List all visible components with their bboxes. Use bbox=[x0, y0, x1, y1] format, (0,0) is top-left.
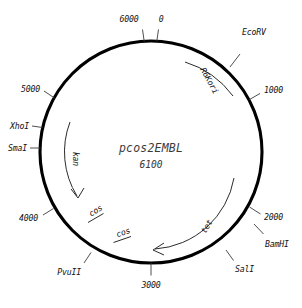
tick-mark-6000 bbox=[143, 30, 145, 42]
plasmid-size-label: 6100 bbox=[139, 159, 162, 170]
leader-ecorv bbox=[230, 54, 240, 67]
leader-xhoi bbox=[32, 126, 43, 128]
feature-label-cos-1: cos bbox=[87, 202, 105, 218]
site-label-ecorv: EcoRV bbox=[242, 27, 267, 37]
site-label-pvuii: PvuII bbox=[57, 267, 81, 277]
tick-label-0: 0 bbox=[159, 14, 164, 24]
feature-label-tet: tet bbox=[198, 218, 214, 236]
plasmid-map-diagram: 6000 0 1000 2000 3000 4000 5000 EcoRV Ba… bbox=[0, 0, 302, 308]
tick-label-6000: 6000 bbox=[120, 14, 139, 24]
leader-bamhi bbox=[254, 224, 264, 234]
tick-label-3000: 3000 bbox=[141, 280, 161, 290]
plasmid-map-canvas: 6000 0 1000 2000 3000 4000 5000 EcoRV Ba… bbox=[0, 0, 302, 308]
tick-label-5000: 5000 bbox=[21, 84, 40, 94]
tick-mark-1000 bbox=[249, 94, 260, 100]
tick-mark-5000 bbox=[44, 91, 55, 98]
tick-mark-2000 bbox=[250, 207, 261, 214]
site-label-bamhi: BamHI bbox=[265, 239, 289, 249]
tick-label-1000: 1000 bbox=[264, 85, 283, 95]
feature-label-kan: kan bbox=[71, 152, 81, 166]
feature-label-r6kori: R6Kori bbox=[198, 66, 221, 96]
tick-mark-4000 bbox=[43, 209, 54, 216]
site-label-sali: SalI bbox=[235, 264, 254, 274]
site-label-xhoi: XhoI bbox=[9, 121, 29, 131]
tick-label-4000: 4000 bbox=[19, 213, 38, 223]
leader-pvuii bbox=[84, 253, 91, 264]
plasmid-name-title: pcos2EMBL bbox=[118, 141, 183, 155]
tick-label-2000: 2000 bbox=[264, 212, 283, 222]
site-label-smai: SmaI bbox=[8, 143, 27, 153]
leader-sali bbox=[226, 250, 234, 261]
tick-mark-0 bbox=[157, 29, 159, 41]
